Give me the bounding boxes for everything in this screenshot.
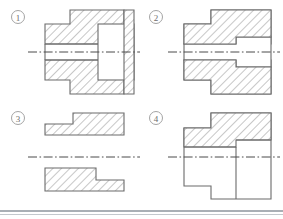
- figure-1-label: 1: [12, 11, 25, 24]
- figure-4-label: 4: [150, 112, 163, 125]
- drawing-sheet: 1 2: [0, 0, 283, 219]
- figure-4-group: 4: [150, 112, 281, 200]
- figure-3-label-text: 3: [16, 114, 21, 124]
- technical-drawing-canvas: 1 2: [0, 0, 283, 219]
- figure-3-group: 3: [12, 112, 141, 192]
- figure-2-label-text: 2: [154, 13, 159, 23]
- figure-2-label: 2: [150, 11, 163, 24]
- figure-3-label: 3: [12, 112, 25, 125]
- figure-1-label-text: 1: [16, 13, 21, 23]
- figure-4-label-text: 4: [154, 114, 159, 124]
- figure-3-upper-block: [45, 113, 124, 135]
- figure-1-group: 1: [12, 10, 141, 94]
- figure-2-group: 2: [150, 10, 281, 94]
- figure-3-lower-block: [45, 168, 124, 191]
